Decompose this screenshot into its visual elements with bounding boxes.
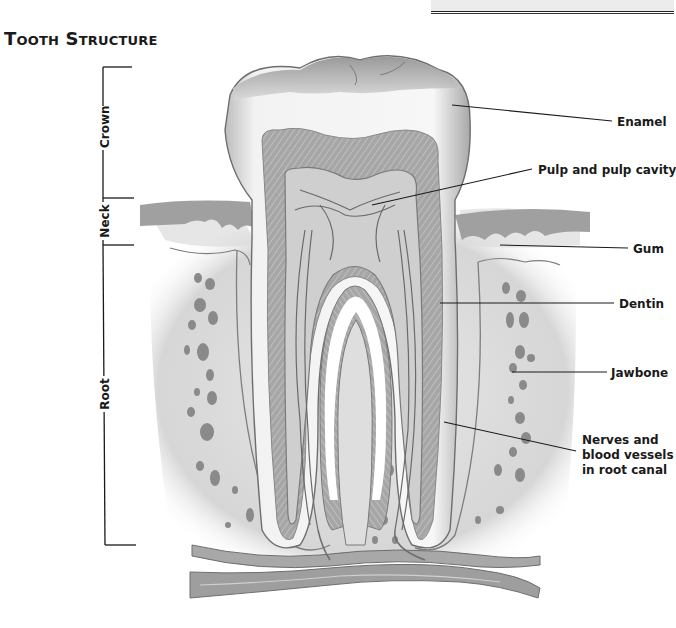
label-nerves-line-2: blood vessels <box>582 448 674 463</box>
label-dentin: Dentin <box>619 297 664 312</box>
label-enamel: Enamel <box>617 115 667 130</box>
label-pulp: Pulp and pulp cavity <box>538 163 676 178</box>
label-nerves-line-1: Nerves and <box>582 433 674 448</box>
region-label-crown: Crown <box>98 106 112 150</box>
label-nerves-line-3: in root canal <box>582 463 674 478</box>
tooth-body <box>225 56 470 548</box>
region-label-neck: Neck <box>98 202 112 240</box>
label-gum: Gum <box>633 242 664 257</box>
label-nerves: Nerves and blood vessels in root canal <box>582 433 674 478</box>
label-jawbone: Jawbone <box>611 366 668 381</box>
region-label-root: Root <box>98 376 112 412</box>
